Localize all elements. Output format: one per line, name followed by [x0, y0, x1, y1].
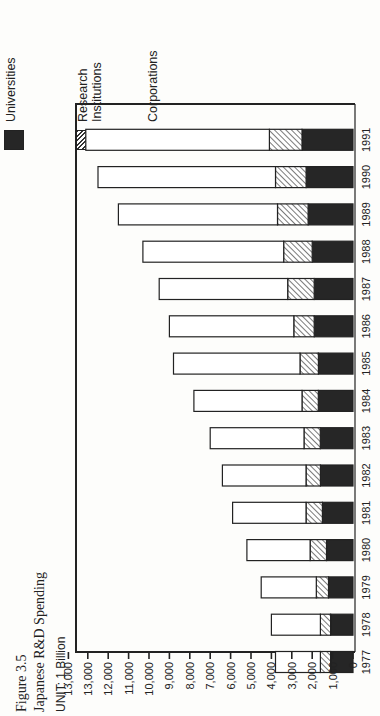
universities-segment — [327, 540, 354, 561]
research-segment — [269, 129, 302, 150]
bar-1991 — [86, 129, 353, 150]
corporations-segment — [247, 540, 310, 561]
corporations-segment — [143, 241, 284, 262]
bar-1984 — [194, 390, 353, 411]
bar-1981 — [233, 502, 353, 523]
year-axis-labels: 1977197819791980198119821983198419851986… — [360, 128, 372, 675]
bar-1980 — [247, 540, 353, 561]
universities-segment — [314, 279, 353, 300]
research-segment — [306, 465, 320, 486]
bar-1986 — [169, 316, 353, 337]
year-label: 1989 — [360, 202, 372, 226]
tick-label: 13,000 — [62, 662, 74, 696]
bar-1988 — [143, 241, 353, 262]
corporations-segment — [159, 279, 288, 300]
year-label: 1987 — [360, 277, 372, 301]
universities-segment — [329, 577, 354, 598]
bar-1979 — [261, 577, 353, 598]
corporations-segment — [233, 502, 306, 523]
corporations-segment — [261, 577, 316, 598]
corporations-segment — [210, 428, 304, 449]
year-label: 1985 — [360, 351, 372, 375]
corporations-segment — [169, 316, 293, 337]
universities-segment — [302, 129, 353, 150]
corporations-segment — [174, 353, 301, 374]
universities-segment — [306, 167, 353, 188]
universities-segment — [322, 502, 353, 523]
research-segment — [320, 614, 330, 635]
tick-label: 9,000 — [163, 662, 175, 690]
bars — [86, 129, 353, 672]
universities-segment — [320, 465, 353, 486]
tick-label: 4,000 — [265, 662, 277, 690]
stacked-bar-chart: 01,0002,0003,0004,0005,0006,0007,0008,00… — [0, 0, 380, 716]
research-segment — [302, 390, 318, 411]
tick-label: 12,000 — [102, 662, 114, 696]
bar-1989 — [118, 204, 353, 225]
year-label: 1988 — [360, 239, 372, 263]
tick-label: 8,000 — [184, 662, 196, 690]
universities-segment — [308, 204, 353, 225]
tick-label: 10,000 — [143, 662, 155, 696]
year-label: 1981 — [360, 501, 372, 525]
research-segment — [304, 428, 320, 449]
universities-segment — [312, 241, 353, 262]
year-label: 1984 — [360, 389, 372, 413]
tick-label: 1,000 — [327, 662, 339, 690]
corporations-segment — [271, 614, 320, 635]
year-label: 1983 — [360, 426, 372, 450]
universities-segment — [318, 390, 353, 411]
tick-label: 7,000 — [204, 662, 216, 690]
research-segment — [316, 577, 328, 598]
bar-1983 — [210, 428, 353, 449]
corporations-segment — [118, 204, 277, 225]
bar-1978 — [271, 614, 353, 635]
research-segment — [278, 204, 309, 225]
research-segment — [276, 167, 307, 188]
year-label: 1990 — [360, 165, 372, 189]
year-label: 1978 — [360, 612, 372, 636]
research-segment — [306, 502, 322, 523]
universities-segment — [320, 428, 353, 449]
corporations-segment — [222, 465, 306, 486]
tick-label: 11,000 — [123, 662, 135, 695]
universities-segment — [331, 614, 353, 635]
corporations-segment — [98, 167, 276, 188]
year-label: 1979 — [360, 575, 372, 599]
year-label: 1991 — [360, 128, 372, 152]
year-label: 1980 — [360, 538, 372, 562]
rotated-figure-page: Figure 3.5 Japanese R&D Spending UNIT: 1… — [0, 0, 380, 716]
corporations-segment — [86, 129, 270, 150]
tick-label: 0 — [347, 662, 359, 668]
research-segment — [310, 540, 326, 561]
tick-label: 5,000 — [245, 662, 257, 690]
tick-label: 6,000 — [225, 662, 237, 690]
tick-label: 13,000 — [82, 662, 94, 696]
corporations-segment — [194, 390, 302, 411]
research-segment — [288, 279, 315, 300]
bar-1987 — [159, 279, 353, 300]
universities-segment — [314, 316, 353, 337]
bar-1982 — [222, 465, 353, 486]
tick-label: 2,000 — [306, 662, 318, 690]
research-segment — [284, 241, 313, 262]
bar-1990 — [98, 167, 353, 188]
bar-1985 — [174, 353, 354, 374]
research-segment — [300, 353, 318, 374]
year-label: 1977 — [360, 650, 372, 674]
year-label: 1982 — [360, 463, 372, 487]
year-label: 1986 — [360, 314, 372, 338]
universities-segment — [318, 353, 353, 374]
research-segment — [294, 316, 314, 337]
tick-label: 3,000 — [286, 662, 298, 690]
